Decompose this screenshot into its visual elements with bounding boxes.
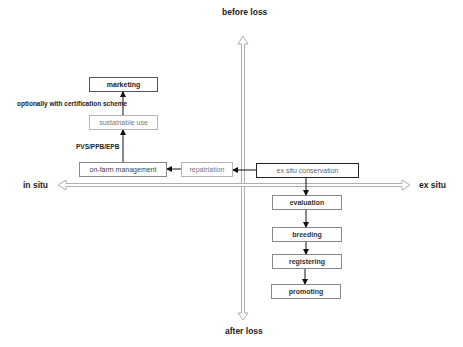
axis-label-after-loss: after loss (225, 326, 263, 336)
edge-label-pvs-ppb-epb: PVS/PPB/EPB (76, 143, 119, 150)
node-marketing: marketing (89, 77, 158, 92)
axis-label-ex-situ: ex situ (419, 180, 446, 190)
axis-label-in-situ: in situ (23, 180, 48, 190)
node-registering: registering (272, 254, 342, 269)
vertical-axis-arrow (238, 36, 248, 320)
node-evaluation: evaluation (272, 195, 342, 210)
edge-label-certification: optionally with certification scheme (17, 100, 127, 107)
horizontal-axis-arrow (58, 180, 410, 190)
node-on-farm-management: on-farm management (79, 162, 167, 177)
node-repatriation: repatriation (181, 162, 233, 177)
horizontal-axis (58, 180, 410, 190)
vertical-axis (238, 36, 248, 320)
node-ex-situ-conservation: ex situ conservation (256, 163, 359, 178)
node-breeding: breeding (272, 227, 342, 242)
node-sustainable-use: sustainable use (89, 115, 158, 130)
node-promoting: promoting (271, 284, 341, 299)
axis-label-before-loss: before loss (222, 7, 267, 17)
